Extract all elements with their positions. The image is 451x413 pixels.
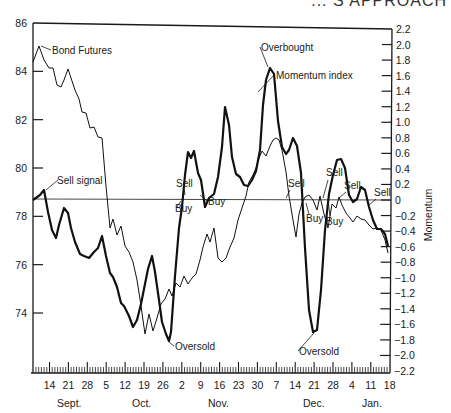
- annotation-sell: Sell: [326, 167, 343, 178]
- x-tick-label: 7: [273, 379, 279, 391]
- bond-futures-line: [33, 46, 388, 334]
- x-axis: 142128512192629162330714212841118Sept.Oc…: [36, 362, 396, 409]
- left-tick-label: 78: [15, 210, 27, 222]
- x-tick-label: 14: [44, 379, 56, 391]
- month-label: Oct.: [132, 397, 151, 409]
- x-tick-label: 21: [308, 379, 320, 391]
- momentum-chart: 74767880828486 2.22.01.81.61.41.21.00.80…: [0, 0, 451, 413]
- right-tick-label: 1.0: [395, 116, 410, 128]
- right-tick-label: 0.6: [395, 147, 410, 159]
- month-label: Nov.: [208, 397, 229, 409]
- right-tick-label: 1.2: [396, 101, 411, 113]
- right-tick-label: 2.2: [396, 23, 411, 35]
- right-tick-label: 0.2: [395, 178, 410, 190]
- annotation-momentum-index: Momentum index: [276, 70, 353, 81]
- left-tick-label: 80: [15, 162, 27, 174]
- right-tick-label: 1.8: [396, 54, 411, 66]
- right-axis-title: Momentum: [422, 188, 434, 241]
- annotation-oversold: Oversold: [175, 341, 215, 352]
- left-tick-label: 82: [15, 114, 27, 126]
- annotation-oversold: Oversold: [299, 346, 339, 357]
- x-tick-label: 14: [289, 379, 301, 391]
- right-tick-label: 2.0: [396, 39, 411, 51]
- right-tick-label: 1.6: [396, 70, 411, 82]
- left-axis: 74767880828486: [15, 17, 43, 319]
- left-tick-label: 76: [15, 259, 27, 271]
- x-tick-label: 2: [179, 379, 185, 391]
- x-tick-label: 19: [138, 379, 150, 391]
- x-tick-label: 5: [103, 379, 109, 391]
- annotation-sell-signal: Sell signal: [57, 175, 103, 186]
- month-label: Dec.: [303, 397, 325, 409]
- right-axis: 2.22.01.81.61.41.21.00.80.60.40.20−0.2−0…: [380, 23, 416, 377]
- annotation-buy: Buy: [208, 196, 225, 207]
- right-tick-label: −0.6: [395, 241, 416, 253]
- right-tick-label: −2.2: [394, 365, 415, 377]
- x-tick-label: 18: [384, 379, 396, 391]
- x-tick-label: 28: [81, 379, 93, 391]
- annotation-buy: Buy: [175, 203, 192, 214]
- x-tick-label: 21: [63, 379, 75, 391]
- right-tick-label: −1.8: [394, 334, 415, 346]
- annotation-sell: Sell: [344, 180, 361, 191]
- right-tick-label: −0.2: [395, 210, 416, 222]
- right-tick-label: −1.6: [394, 318, 415, 330]
- x-tick-label: 12: [119, 379, 131, 391]
- month-label: Sept.: [57, 397, 82, 409]
- left-tick-label: 74: [15, 307, 27, 319]
- x-tick-label: 4: [349, 379, 355, 391]
- annotation-bond-futures: Bond Futures: [52, 45, 112, 56]
- right-tick-label: −1.4: [394, 303, 415, 315]
- annotation-buy: Buy: [306, 213, 323, 224]
- left-tick-label: 84: [15, 65, 27, 77]
- series-layer: [33, 46, 388, 341]
- x-tick-label: 30: [252, 379, 264, 391]
- right-tick-label: 1.4: [396, 85, 411, 97]
- right-tick-label: −1.2: [394, 287, 415, 299]
- annotation-overbought: Overbought: [261, 42, 313, 53]
- x-tick-label: 9: [198, 379, 204, 391]
- x-tick-label: 26: [157, 379, 169, 391]
- annotation-sell: Sell: [176, 178, 193, 189]
- x-tick-label: 16: [214, 379, 226, 391]
- x-tick-label: 23: [233, 379, 245, 391]
- left-tick-label: 86: [15, 17, 27, 29]
- right-tick-label: 0.4: [395, 163, 410, 175]
- month-label: Jan.: [362, 397, 382, 409]
- annotation-sell: Sell: [374, 187, 391, 198]
- right-tick-label: −2.0: [394, 349, 415, 361]
- right-tick-label: −0.4: [395, 225, 416, 237]
- right-tick-label: −1.0: [395, 272, 416, 284]
- right-tick-label: −0.8: [395, 256, 416, 268]
- x-tick-label: 28: [327, 379, 339, 391]
- right-tick-label: 0: [395, 194, 401, 206]
- annotation-sell: Sell: [288, 178, 305, 189]
- right-tick-label: 0.8: [395, 132, 410, 144]
- annotation-buy: Buy: [326, 216, 343, 227]
- x-tick-label: 11: [365, 379, 376, 391]
